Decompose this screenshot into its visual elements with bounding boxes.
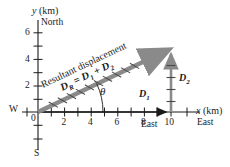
x-tick-label: 4 bbox=[88, 118, 93, 128]
west-label: W bbox=[9, 105, 18, 115]
x-tick-label: 2 bbox=[62, 118, 67, 128]
vector-d2-label: D2 bbox=[179, 73, 190, 86]
y-axis-label: y bbox=[32, 5, 36, 16]
x-axis-title: x (km) bbox=[196, 106, 222, 116]
north-label: North bbox=[41, 18, 63, 28]
y-tick-label: 2 bbox=[25, 81, 30, 91]
y-axis-unit: (km) bbox=[39, 5, 58, 16]
origin-label: 0 bbox=[31, 114, 36, 124]
x-tick-label: 8 bbox=[141, 118, 146, 128]
south-label: S bbox=[34, 149, 39, 159]
y-tick-label: 6 bbox=[25, 28, 30, 38]
vector-d1-subscript: 1 bbox=[146, 94, 150, 102]
x-tick-label: 6 bbox=[115, 118, 120, 128]
east-label-axis: East bbox=[197, 118, 213, 128]
figure-canvas: y (km) North East W S x (km) East 0 2 4 … bbox=[0, 0, 230, 167]
vector-diagram-svg bbox=[0, 0, 230, 167]
y-axis-title: y (km) bbox=[32, 6, 58, 16]
y-tick-label: 4 bbox=[25, 55, 30, 65]
x-axis-label: x bbox=[196, 105, 200, 116]
x-axis-unit: (km) bbox=[203, 105, 222, 116]
vector-d1-label: D1 bbox=[139, 89, 150, 102]
vector-d2-subscript: 2 bbox=[186, 78, 190, 86]
vector-d2 bbox=[167, 54, 176, 112]
x-tick-label: 10 bbox=[165, 118, 175, 128]
